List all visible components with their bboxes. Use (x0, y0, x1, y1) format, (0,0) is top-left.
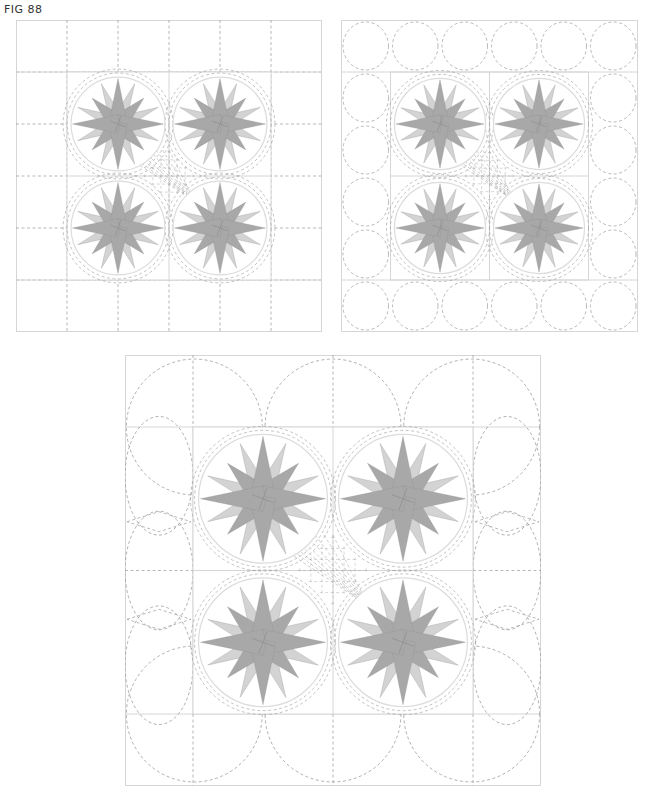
panel-arc-border (125, 355, 541, 786)
circle-quilting (442, 282, 488, 330)
compass-star (339, 578, 468, 707)
circle-quilting (343, 126, 389, 174)
circle-quilting (442, 22, 488, 70)
compass-star (173, 181, 267, 275)
circle-border-diagram (341, 20, 638, 332)
compass-star (173, 77, 267, 171)
circle-quilting (492, 282, 538, 330)
compass-star (199, 434, 328, 563)
compass-star (71, 181, 165, 275)
circle-quilting (591, 22, 637, 70)
circle-quilting (541, 22, 587, 70)
compass-star (199, 578, 328, 707)
compass-star (339, 434, 468, 563)
compass-star (394, 78, 485, 169)
circle-quilting (591, 74, 637, 122)
arc-border-diagram (125, 355, 541, 786)
diamond-quilting (475, 609, 539, 629)
circle-quilting (343, 178, 389, 226)
arc-quilting (125, 606, 193, 725)
grid-border-diagram (16, 20, 322, 332)
compass-star (71, 77, 165, 171)
panel-grid-border (16, 20, 322, 332)
compass-star (493, 78, 584, 169)
circle-quilting (541, 282, 587, 330)
circle-quilting (343, 22, 389, 70)
circle-quilting (343, 74, 389, 122)
panel-circle-border (341, 20, 638, 332)
diamond-quilting (475, 512, 539, 532)
circle-quilting (393, 22, 439, 70)
arc-quilting (125, 416, 193, 535)
circle-quilting (591, 282, 637, 330)
arc-quilting (473, 606, 541, 725)
circle-quilting (591, 126, 637, 174)
diamond-quilting (127, 609, 191, 629)
compass-star (394, 182, 485, 273)
figure-label: FIG 88 (4, 3, 43, 16)
circle-quilting (393, 282, 439, 330)
circle-quilting (343, 230, 389, 278)
diamond-quilting (127, 512, 191, 532)
circle-quilting (591, 230, 637, 278)
circle-quilting (343, 282, 389, 330)
circle-quilting (591, 178, 637, 226)
arc-quilting (473, 416, 541, 535)
circle-quilting (492, 22, 538, 70)
compass-star (493, 182, 584, 273)
